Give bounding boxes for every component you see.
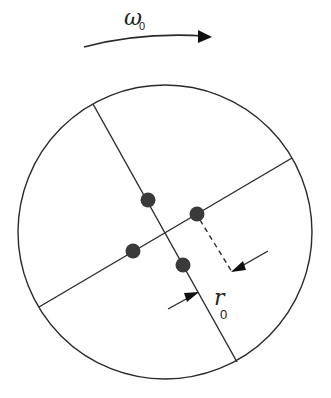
- rotating-disk-diagram: ω 0 r 0: [0, 0, 331, 398]
- arrowhead-left-icon: [184, 292, 199, 302]
- dashed-radius-line: [200, 220, 232, 272]
- rotation-arrow: [84, 35, 205, 47]
- omega-subscript: 0: [139, 20, 145, 32]
- arrowhead-right-icon: [231, 261, 246, 272]
- rotation-arrowhead-icon: [198, 30, 212, 43]
- dot-4: [176, 258, 191, 273]
- diameter-line-2: [39, 158, 292, 307]
- dot-1: [141, 193, 156, 208]
- dot-3: [126, 244, 141, 259]
- r-subscript: 0: [220, 307, 227, 322]
- dot-2: [190, 207, 205, 222]
